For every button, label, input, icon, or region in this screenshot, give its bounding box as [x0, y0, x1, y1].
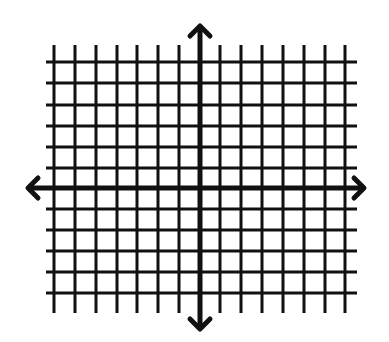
x-axis: [28, 178, 364, 198]
coordinate-plane-svg: [0, 0, 389, 342]
y-axis: [190, 26, 210, 329]
